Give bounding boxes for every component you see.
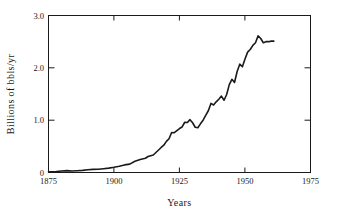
y-tick-label-2: 2.0	[33, 63, 44, 73]
x-axis-ticks	[114, 16, 245, 173]
x-tick-label-1950: 1950	[236, 176, 253, 186]
chart-figure: 3.0 2.0 1.0 0 1875 1900 1925 1950 1975 B…	[0, 0, 337, 218]
y-axis-ticks	[49, 68, 311, 120]
x-tick-label-1925: 1925	[171, 176, 188, 186]
x-tick-label-1875: 1875	[40, 176, 57, 186]
y-tick-label-3: 3.0	[33, 11, 44, 21]
y-tick-label-1: 1.0	[33, 115, 44, 125]
x-tick-label-1975: 1975	[302, 176, 319, 186]
oil-production-line-chart: 3.0 2.0 1.0 0 1875 1900 1925 1950 1975 B…	[0, 0, 337, 218]
y-axis-title: Billions of bbls/yr	[5, 54, 16, 135]
plot-frame	[49, 16, 311, 173]
x-tick-label-1900: 1900	[105, 176, 122, 186]
x-axis-title: Years	[167, 197, 191, 208]
data-series-line	[49, 36, 274, 172]
